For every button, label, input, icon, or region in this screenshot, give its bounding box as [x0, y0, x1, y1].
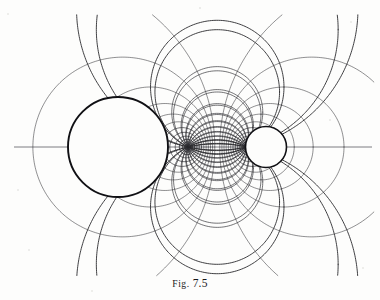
caption-prefix: Fig.	[172, 278, 189, 289]
bipolar-field-diagram	[0, 0, 380, 300]
large-conductor-circle	[68, 97, 168, 197]
small-conductor-circle	[246, 127, 287, 168]
figure-caption: Fig. 7.5	[0, 277, 380, 289]
caption-number: 7.5	[193, 277, 208, 289]
figure-page: Fig. 7.5	[0, 0, 380, 300]
